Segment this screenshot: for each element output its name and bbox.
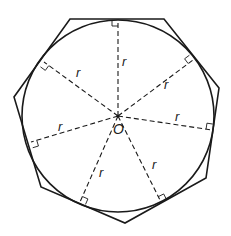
radius-line	[31, 116, 118, 142]
radius-label: r	[152, 157, 157, 172]
inscribed-circle-diagram: rrrrrrr O	[0, 0, 231, 236]
radius-label: r	[76, 65, 81, 80]
diagram-canvas: rrrrrrr O	[0, 0, 231, 236]
right-angle-icon	[82, 197, 87, 205]
right-angle-icon	[185, 55, 190, 63]
radius-label: r	[164, 77, 169, 92]
radius-label: r	[175, 109, 180, 124]
center-label: O	[113, 121, 124, 137]
center-point	[116, 114, 119, 117]
radius-label: r	[58, 119, 63, 134]
right-angle-icon	[40, 66, 48, 71]
radius-line	[118, 60, 193, 116]
radius-label: r	[122, 54, 127, 69]
radius-label: r	[99, 165, 104, 180]
right-angle-icon	[206, 123, 213, 129]
radius-line	[118, 116, 212, 130]
radius-line	[44, 62, 118, 116]
